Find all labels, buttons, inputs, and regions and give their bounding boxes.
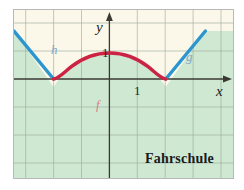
y-axis-label: y (96, 20, 103, 35)
curve-label-f: f (96, 98, 100, 111)
x-axis-label: x (216, 84, 223, 99)
plot-frame: y x 1 1 h g f Fahrschule (13, 9, 234, 179)
curve-label-g: g (186, 50, 193, 63)
watermark-text: Fahrschule (145, 151, 214, 167)
y-tick-label-1: 1 (102, 46, 109, 59)
x-tick-label-1: 1 (134, 84, 141, 97)
figure-container: y x 1 1 h g f Fahrschule (0, 0, 244, 190)
curve-label-h: h (51, 43, 58, 56)
